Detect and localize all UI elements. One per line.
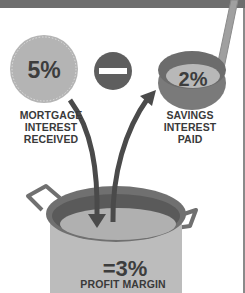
savings-label-line: INTEREST	[150, 121, 230, 133]
mortgage-rate-value: 5%	[16, 56, 72, 84]
mortgage-label-line: MORTGAGE	[8, 109, 94, 121]
savings-rate-value: 2%	[168, 67, 218, 91]
minus-circle-icon	[94, 52, 132, 90]
savings-label-line: SAVINGS	[150, 109, 230, 121]
mortgage-label-line: INTEREST	[8, 121, 94, 133]
mortgage-label-line: RECEIVED	[8, 133, 94, 145]
savings-label-line: PAID	[150, 133, 230, 145]
mortgage-label: MORTGAGE INTEREST RECEIVED	[8, 109, 94, 145]
savings-label: SAVINGS INTEREST PAID	[150, 109, 230, 145]
profit-margin-label: PROFIT MARGIN	[50, 278, 196, 290]
infographic-art	[0, 0, 245, 293]
